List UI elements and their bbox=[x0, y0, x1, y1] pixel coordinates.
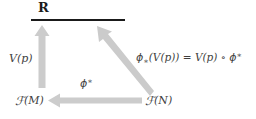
commutative-diagram: R ℱ(M) ℱ(N) V(p) ϕ∗ ϕ∗(V(p)) = V(p) ∘ ϕ∗ bbox=[0, 0, 256, 119]
node-functions-on-N: ℱ(N) bbox=[145, 94, 172, 106]
label-pullback-map: ϕ∗ bbox=[80, 78, 93, 89]
script-F-icon: ℱ bbox=[145, 94, 154, 108]
node-FM-argument: (M) bbox=[24, 94, 44, 107]
equals-glyph: = bbox=[183, 51, 192, 63]
node-FN-argument: (N) bbox=[154, 94, 172, 107]
phi-glyph: ϕ bbox=[229, 51, 236, 64]
superscript-star-icon: ∗ bbox=[87, 77, 92, 86]
superscript-star-icon: ∗ bbox=[237, 51, 242, 60]
arrow-FN-to-FM bbox=[48, 94, 142, 108]
label-vertical-map: V(p) bbox=[9, 53, 33, 64]
arrow-FM-to-R bbox=[35, 25, 50, 88]
script-F-icon: ℱ bbox=[15, 94, 24, 108]
pushforward-argument: (V(p)) bbox=[149, 51, 180, 63]
rhs-first-term: V(p) bbox=[195, 51, 218, 63]
label-pushforward-equation: ϕ∗(V(p)) = V(p) ∘ ϕ∗ bbox=[136, 52, 242, 66]
node-functions-on-M: ℱ(M) bbox=[15, 94, 44, 106]
